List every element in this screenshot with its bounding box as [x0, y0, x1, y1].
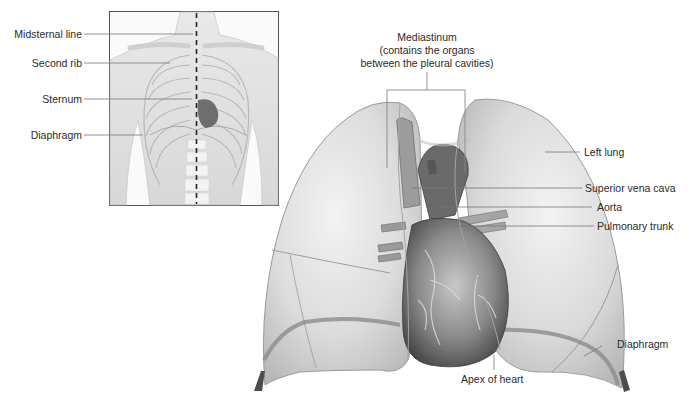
anatomy-illustration	[0, 0, 689, 403]
label-aorta: Aorta	[597, 201, 622, 213]
label-superior-vena-cava: Superior vena cava	[585, 182, 675, 194]
label-left-lung: Left lung	[584, 146, 624, 158]
label-diaphragm-inset: Diaphragm	[6, 129, 82, 141]
mediastinum-subtitle-2: between the pleural cavities)	[347, 57, 507, 70]
label-midsternal-line: Midsternal line	[6, 28, 82, 40]
label-second-rib: Second rib	[6, 57, 82, 69]
mediastinum-title: Mediastinum	[347, 31, 507, 44]
label-sternum: Sternum	[6, 93, 82, 105]
label-apex-of-heart: Apex of heart	[461, 373, 523, 385]
label-diaphragm-main: Diaphragm	[617, 338, 668, 350]
inset-torso-figure	[110, 12, 279, 206]
mediastinum-subtitle-1: (contains the organs	[347, 44, 507, 57]
mediastinum-caption: Mediastinum (contains the organs between…	[347, 31, 507, 70]
label-pulmonary-trunk: Pulmonary trunk	[597, 220, 673, 232]
